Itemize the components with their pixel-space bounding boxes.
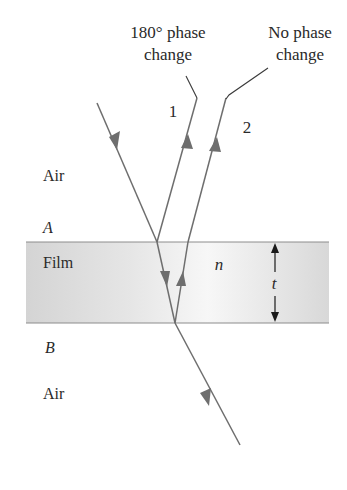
leader-line-1 <box>186 76 197 98</box>
label-interface-b: B <box>45 339 55 356</box>
thin-film-diagram: 180° phase change No phase change 1 2 Ai… <box>0 0 347 490</box>
label-index-n: n <box>215 255 224 274</box>
reflected-ray-2 <box>188 98 226 242</box>
incident-ray <box>97 103 157 242</box>
label-air-bottom: Air <box>43 385 65 402</box>
label-film: Film <box>43 254 74 271</box>
transmitted-ray <box>175 323 240 445</box>
label-no-phase-change: change <box>276 45 324 64</box>
label-no-phase: No phase <box>268 23 332 42</box>
label-180-phase: 180° phase <box>130 23 205 42</box>
transmitted-arrow-icon <box>200 388 211 406</box>
label-180-change: change <box>144 45 192 64</box>
ray1-arrow-icon <box>181 134 193 149</box>
label-ray-1: 1 <box>169 102 178 121</box>
label-interface-a: A <box>42 219 53 236</box>
leader-line-2 <box>226 68 268 99</box>
label-ray-2: 2 <box>243 118 252 137</box>
leader-lines <box>186 68 268 99</box>
label-air-top: Air <box>43 167 65 184</box>
